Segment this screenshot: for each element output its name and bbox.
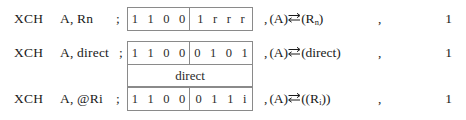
mnemonic-operands-label: A, direct [60, 43, 109, 63]
mnemonic-cell: XCHA, direct [14, 43, 126, 63]
operation-cell: ,(A)(Rn) [264, 9, 323, 29]
table-row: XCHA, @Ri ; 1 1 0 0 0 1 1 i ,(A)((Ri)) ,… [0, 84, 466, 118]
operation-left-operand: (A) [269, 91, 288, 106]
operation-leading-comma: , [264, 45, 267, 60]
opcode-high-nibble: 1 1 0 0 [128, 8, 190, 30]
operation-right-operand-pre: (R [301, 11, 315, 26]
opcode-low-nibble: 1 r r r [190, 8, 252, 30]
swap-arrows-icon [288, 12, 301, 24]
operation-right-operand-pre: ((R [301, 91, 319, 106]
instruction-table: XCHA, Rn ; 1 1 0 0 1 r r r ,(A)(Rn) , 1 … [0, 0, 466, 120]
swap-arrows-icon [288, 46, 301, 58]
mnemonic-opcode-label: XCH [14, 43, 50, 63]
operation-left-operand: (A) [269, 45, 288, 60]
table-row: XCHA, Rn ; 1 1 0 0 1 r r r ,(A)(Rn) , 1 [0, 4, 466, 38]
operation-right-operand-post: )) [321, 91, 330, 106]
table-row: XCHA, direct ; 1 1 0 0 0 1 0 1 direct ,(… [0, 38, 466, 84]
mnemonic-cell: XCHA, Rn [14, 9, 126, 29]
opcode-byte-row: 1 1 0 0 0 1 1 i [128, 88, 252, 110]
separator-semicolon: ; [119, 43, 123, 63]
separator-semicolon: ; [116, 89, 120, 109]
trailing-comma: , [378, 89, 381, 109]
cycles-value: 1 [424, 89, 452, 109]
opcode-high-nibble: 1 1 0 0 [128, 42, 190, 64]
operation-leading-comma: , [264, 91, 267, 106]
operation-leading-comma: , [264, 11, 267, 26]
mnemonic-operands-label: A, Rn [60, 9, 93, 29]
swap-arrows-icon [288, 92, 301, 104]
opcode-high-nibble: 1 1 0 0 [128, 88, 190, 110]
opcode-byte-row: 1 1 0 0 1 r r r [128, 8, 252, 30]
opcode-byte-row: 1 1 0 0 0 1 0 1 [128, 42, 252, 64]
trailing-comma: , [378, 43, 381, 63]
mnemonic-operands-label: A, @Ri [60, 89, 103, 109]
mnemonic-cell: XCHA, @Ri [14, 89, 126, 109]
operand-byte-cell: direct [128, 64, 252, 86]
operation-right-operand-pre: (direct [301, 45, 336, 60]
operation-cell: ,(A)(direct) [264, 43, 341, 63]
opcode-low-nibble: 0 1 1 i [190, 88, 252, 110]
operation-left-operand: (A) [269, 11, 288, 26]
mnemonic-opcode-label: XCH [14, 9, 50, 29]
opcode-low-nibble: 0 1 0 1 [190, 42, 252, 64]
mnemonic-opcode-label: XCH [14, 89, 50, 109]
opcode-box: 1 1 0 0 0 1 0 1 direct [127, 41, 253, 87]
opcode-box: 1 1 0 0 1 r r r [127, 7, 253, 31]
operation-cell: ,(A)((Ri)) [264, 89, 330, 109]
operation-right-operand-post: ) [336, 45, 341, 60]
separator-semicolon: ; [116, 9, 120, 29]
cycles-value: 1 [424, 9, 452, 29]
opcode-box: 1 1 0 0 0 1 1 i [127, 87, 253, 111]
trailing-comma: , [378, 9, 381, 29]
operation-right-operand-post: ) [319, 11, 324, 26]
cycles-value: 1 [424, 43, 452, 63]
